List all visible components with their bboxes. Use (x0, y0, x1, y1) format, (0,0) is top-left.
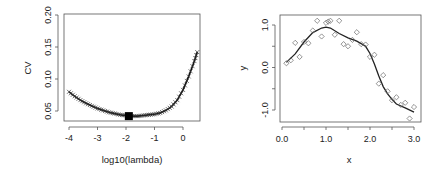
cv-y-tick-label: 0.15 (43, 38, 53, 56)
fit-x-tick-label: 2.0 (364, 134, 377, 144)
cv-plot-panel: -4-3-2-10 0.050.100.150.20 log10(lambda)… (22, 6, 200, 165)
cv-x-tick-label: -3 (93, 133, 101, 143)
fit-observation-points (284, 18, 417, 121)
fit-x-tick-label: 1.0 (320, 134, 333, 144)
fit-y-tick-label: 0.0 (260, 61, 270, 74)
cv-x-tick-label: -4 (65, 133, 73, 143)
fit-x-tick-label: 3.0 (408, 134, 421, 144)
fit-plot-panel: 0.01.02.03.0 -1.00.01.0 x y (237, 15, 421, 165)
fit-x-axis: 0.01.02.03.0 (276, 127, 421, 144)
cv-x-tick-label: 0 (180, 133, 185, 143)
fit-y-axis: -1.00.01.0 (260, 19, 275, 118)
fit-y-axis-label: y (237, 65, 248, 70)
fit-x-axis-label: x (347, 154, 352, 165)
fit-y-tick-label: -1.0 (260, 102, 270, 118)
cv-y-axis: 0.050.100.150.20 (43, 6, 58, 120)
fit-x-tick-label: 0.0 (276, 134, 289, 144)
cv-x-axis: -4-3-2-10 (65, 127, 186, 143)
fit-y-tick-label: 1.0 (260, 19, 270, 32)
cv-x-tick-label: -1 (150, 133, 158, 143)
chart-figure: -4-3-2-10 0.050.100.150.20 log10(lambda)… (0, 0, 442, 175)
cv-y-tick-label: 0.20 (43, 6, 53, 24)
cv-y-axis-label: CV (22, 61, 33, 75)
cv-minimum-marker (125, 112, 133, 120)
cv-y-tick-label: 0.05 (43, 102, 53, 120)
cv-x-axis-label: log10(lambda) (102, 154, 163, 165)
cv-y-tick-label: 0.10 (43, 70, 53, 88)
cv-x-markers (67, 50, 199, 118)
cv-x-tick-label: -2 (122, 133, 130, 143)
